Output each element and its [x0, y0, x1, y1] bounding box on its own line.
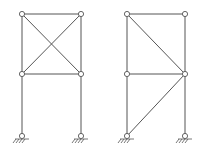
pin-support-icon: [13, 133, 29, 143]
frame-member: [127, 74, 185, 136]
hinge-joint-icon: [124, 71, 129, 76]
pin-support-icon: [176, 133, 192, 143]
frame-member: [127, 14, 185, 74]
hinge-joint-icon: [78, 71, 83, 76]
pin-support-icon: [118, 133, 134, 143]
hinge-joint-icon: [78, 11, 83, 16]
hinge-joint-icon: [19, 71, 24, 76]
hinge-joint-icon: [124, 11, 129, 16]
right-frame: [118, 11, 192, 143]
pin-support-icon: [72, 133, 88, 143]
hinge-joint-icon: [182, 11, 187, 16]
hinge-joint-icon: [182, 71, 187, 76]
left-frame: [13, 11, 88, 143]
hinge-joint-icon: [19, 11, 24, 16]
truss-frames-diagram: [0, 0, 204, 150]
